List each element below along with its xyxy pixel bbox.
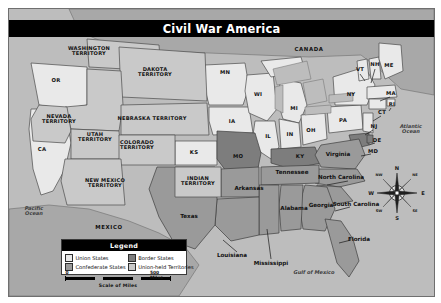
state-minnesota xyxy=(205,63,249,105)
scale-tick-end xyxy=(170,276,171,281)
legend-items: Union StatesBorder StatesConfederate Sta… xyxy=(62,251,186,274)
lake-ontario xyxy=(329,93,353,103)
compass-label-southeast: SE xyxy=(412,209,417,213)
state-iowa xyxy=(209,107,253,135)
civil-war-america-map-figure: Civil War America WASHINGTON TERRITORYDA… xyxy=(0,0,441,303)
state-ohio xyxy=(301,113,327,145)
state-tennessee xyxy=(261,165,319,185)
legend-item-label: Union-held Territories xyxy=(138,264,194,270)
legend-swatch xyxy=(128,254,136,262)
legend-item: Union States xyxy=(65,254,126,262)
compass-label-west: W xyxy=(368,190,374,196)
territory-nebraska xyxy=(121,103,209,135)
state-kansas xyxy=(175,141,217,165)
state-rhode-island xyxy=(387,99,395,106)
legend-item: Confederate States xyxy=(65,263,126,271)
scale-tick-start xyxy=(65,276,66,281)
compass-rose: N S E W NW NE SW SE xyxy=(373,169,421,217)
scale-segment-1 xyxy=(65,277,95,280)
page-title: Civil War America xyxy=(163,22,281,36)
lake-huron xyxy=(303,79,327,105)
territory-dakota xyxy=(119,47,207,101)
territory-colorado xyxy=(119,135,175,165)
scale-caption: Scale of Miles xyxy=(65,283,171,288)
state-oregon xyxy=(31,63,87,109)
territory-nevada xyxy=(31,105,71,143)
legend: Legend Union StatesBorder StatesConfeder… xyxy=(61,239,187,275)
scale-bar: 0 500 Miles Scale of Miles xyxy=(65,274,171,288)
state-arkansas xyxy=(221,167,259,197)
state-new-jersey xyxy=(363,113,373,133)
territory-indian xyxy=(175,167,221,197)
lake-erie xyxy=(305,105,331,115)
lake-michigan xyxy=(275,85,283,113)
compass-label-southwest: SW xyxy=(376,209,383,213)
state-connecticut xyxy=(369,99,386,109)
territory-utah xyxy=(71,129,121,159)
compass-label-northwest: NW xyxy=(376,173,383,177)
scale-segment-2 xyxy=(103,277,133,280)
legend-item-label: Border States xyxy=(138,255,173,261)
compass-label-northeast: NE xyxy=(412,173,417,177)
state-massachusetts xyxy=(367,85,397,99)
scale-graphic: 0 500 Miles xyxy=(65,274,171,282)
map-plate: Civil War America WASHINGTON TERRITORYDA… xyxy=(8,8,435,297)
legend-item: Border States xyxy=(128,254,194,262)
state-delaware xyxy=(367,135,373,143)
state-alabama xyxy=(279,185,303,231)
scale-end-label: 500 Miles xyxy=(150,270,164,280)
state-pennsylvania xyxy=(327,105,363,133)
territory-new-mexico xyxy=(61,159,125,205)
map-title-bar: Civil War America xyxy=(9,20,434,37)
scale-start-label: 0 xyxy=(65,270,68,275)
legend-swatch xyxy=(128,263,136,271)
compass-label-south: S xyxy=(395,215,399,221)
legend-item-label: Confederate States xyxy=(76,264,126,270)
legend-swatch xyxy=(65,254,73,262)
legend-title: Legend xyxy=(62,240,186,251)
state-indiana xyxy=(279,119,301,149)
compass-label-north: N xyxy=(395,165,399,171)
legend-item-label: Union States xyxy=(76,255,109,261)
compass-label-east: E xyxy=(421,190,425,196)
state-mississippi xyxy=(259,185,279,235)
